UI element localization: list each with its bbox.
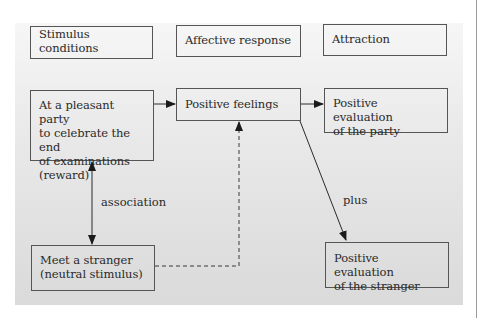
arrow-feelings-to-eval-stranger [300, 121, 346, 240]
arrow-stranger-to-feelings-dashed [155, 122, 239, 266]
diagram-arrows [0, 0, 479, 318]
